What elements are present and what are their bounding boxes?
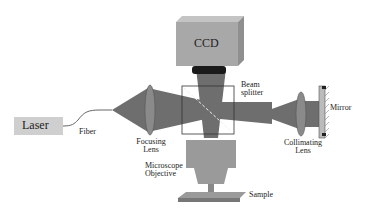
sample-front [178, 198, 240, 202]
ccd-lens-mount [192, 66, 226, 74]
ccd-label: CCD [194, 37, 219, 50]
sample-top [178, 192, 246, 198]
objective-body [186, 140, 236, 168]
sample-label: Sample [249, 191, 273, 199]
focusing-lens-label: Focusing Lens [134, 138, 168, 155]
fiber-label: Fiber [79, 128, 96, 136]
mirror [319, 86, 325, 138]
microscope-objective-label: Microscope Objective [145, 162, 183, 179]
collimating-lens-label: Collimating Lens [283, 139, 323, 156]
optical-setup-diagram [0, 0, 365, 217]
ccd-side [238, 16, 244, 66]
beam-splitter-label: Beam splitter [241, 81, 263, 98]
collimating-lens [296, 92, 306, 136]
laser-label: Laser [22, 119, 49, 132]
diverging-beam [112, 88, 148, 132]
mirror-label: Mirror [330, 104, 351, 112]
ccd-top [176, 16, 244, 22]
fiber-line [63, 110, 112, 126]
objective-tip [208, 184, 214, 192]
objective-nose [194, 168, 228, 184]
focusing-lens [145, 85, 155, 135]
